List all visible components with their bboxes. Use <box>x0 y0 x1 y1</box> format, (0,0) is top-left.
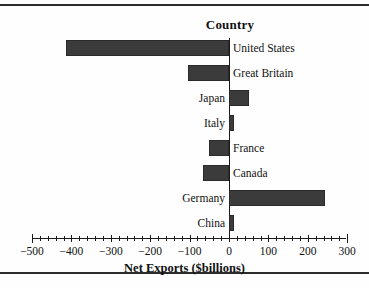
bar-label: Canada <box>233 165 267 181</box>
x-tick-minor <box>213 236 214 241</box>
x-tick-major <box>190 235 191 242</box>
x-tick-label: 300 <box>324 245 369 257</box>
x-tick-major <box>32 234 33 243</box>
bar-label: Japan <box>199 90 225 106</box>
bar-label: China <box>198 215 225 231</box>
x-tick-minor <box>197 236 198 241</box>
bar <box>66 40 229 56</box>
bar <box>229 215 234 231</box>
x-tick-minor <box>79 236 80 241</box>
x-tick-major <box>111 235 112 242</box>
x-tick-minor <box>134 236 135 241</box>
x-tick-major <box>308 235 309 242</box>
x-tick-minor <box>221 236 222 241</box>
bar <box>188 65 229 81</box>
x-tick-minor <box>127 236 128 241</box>
x-tick-minor <box>245 236 246 241</box>
x-tick-minor <box>95 236 96 241</box>
x-tick-minor <box>158 236 159 241</box>
x-tick-minor <box>56 236 57 241</box>
bar <box>229 115 234 131</box>
x-tick-major <box>71 235 72 242</box>
bar <box>209 140 229 156</box>
x-tick-minor <box>261 236 262 241</box>
bar-label: Germany <box>182 190 225 206</box>
x-tick-major <box>268 235 269 242</box>
x-tick-minor <box>166 236 167 241</box>
x-tick-minor <box>103 236 104 241</box>
bar <box>203 165 229 181</box>
x-tick-minor <box>64 236 65 241</box>
x-tick-minor <box>331 236 332 241</box>
x-tick-minor <box>339 236 340 241</box>
x-tick-minor <box>253 236 254 241</box>
x-tick-minor <box>205 236 206 241</box>
x-tick-minor <box>174 236 175 241</box>
x-tick-minor <box>292 236 293 241</box>
x-tick-major <box>150 235 151 242</box>
x-axis-title: Net Exports ($billions) <box>0 261 369 276</box>
x-tick-minor <box>276 236 277 241</box>
x-tick-minor <box>300 236 301 241</box>
x-tick-minor <box>182 236 183 241</box>
x-tick-minor <box>142 236 143 241</box>
bar-label: France <box>233 140 264 156</box>
zero-axis-line <box>229 38 230 238</box>
bar <box>229 190 325 206</box>
x-tick-minor <box>87 236 88 241</box>
x-tick-major <box>347 234 348 243</box>
x-tick-minor <box>48 236 49 241</box>
x-tick-minor <box>316 236 317 241</box>
x-tick-major <box>229 235 230 242</box>
x-tick-minor <box>40 236 41 241</box>
x-tick-minor <box>284 236 285 241</box>
figure: Country United StatesGreat BritainJapanI… <box>0 0 369 288</box>
bar <box>229 90 249 106</box>
bar-label: Italy <box>204 115 225 131</box>
x-tick-minor <box>119 236 120 241</box>
bar-label: United States <box>233 40 295 56</box>
x-tick-minor <box>237 236 238 241</box>
x-tick-minor <box>324 236 325 241</box>
bar-label: Great Britain <box>233 65 293 81</box>
